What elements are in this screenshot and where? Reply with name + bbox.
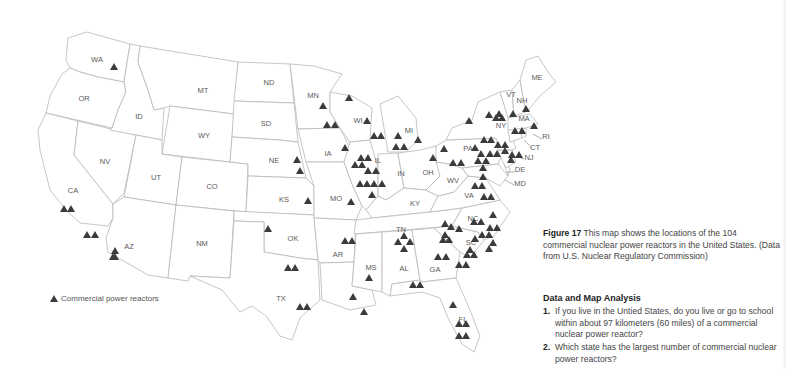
state-label-nj: NJ: [524, 153, 533, 162]
state-label-wi: WI: [353, 116, 362, 125]
state-label-mi: MI: [405, 126, 413, 135]
state-label-sd: SD: [261, 119, 272, 128]
legend-label: Commercial power reactors: [61, 294, 159, 303]
state-label-ne: NE: [269, 156, 279, 165]
reactor-triangle-icon: [515, 151, 523, 158]
state-label-me: ME: [531, 73, 542, 82]
state-label-al: AL: [399, 264, 408, 273]
reactor-triangle-icon: [489, 239, 497, 246]
state-label-ky: KY: [410, 199, 420, 208]
reactor-triangle-icon: [462, 261, 470, 268]
state-label-mn: MN: [307, 91, 319, 100]
figure-label: Figure 17: [543, 228, 581, 238]
state-label-nh: NH: [517, 96, 528, 105]
state-boundaries: [38, 32, 556, 352]
state-label-ks: KS: [279, 195, 289, 204]
state-label-oh: OH: [422, 168, 433, 177]
question-text: If you live in the Untied States, do you…: [555, 306, 780, 341]
state-label-va: VA: [464, 191, 473, 200]
reactor-triangle-icon: [370, 132, 378, 139]
state-label-wv: WV: [447, 176, 459, 185]
state-label-ar: AR: [333, 250, 344, 259]
state-label-az: AZ: [124, 242, 134, 251]
state-mi: [380, 96, 418, 152]
map-legend: Commercial power reactors: [50, 294, 159, 303]
state-label-ny: NY: [496, 121, 506, 130]
reactor-triangle-icon: [91, 231, 99, 238]
analysis-heading: Data and Map Analysis: [543, 293, 641, 303]
state-label-ca: CA: [68, 186, 78, 195]
state-label-nm: NM: [196, 239, 208, 248]
state-label-nv: NV: [100, 157, 110, 166]
reactor-triangle-icon: [50, 295, 58, 302]
state-label-or: OR: [78, 94, 90, 103]
page-edge-shadow: [782, 0, 786, 369]
question-1: 1.If you live in the Untied States, do y…: [543, 306, 783, 341]
state-label-nd: ND: [264, 78, 275, 87]
state-label-mo: MO: [330, 194, 342, 203]
state-label-vt: VT: [506, 90, 516, 99]
state-label-ut: UT: [151, 173, 161, 182]
state-label-mt: MT: [198, 86, 209, 95]
reactor-triangle-icon: [485, 245, 493, 252]
reactor-triangle-icon: [83, 231, 91, 238]
question-text: Which state has the largest number of co…: [555, 342, 780, 365]
state-az: [106, 197, 176, 278]
question-number: 1.: [543, 306, 555, 318]
state-label-tx: TX: [276, 294, 286, 303]
state-label-ms: MS: [365, 263, 376, 272]
state-ms: [352, 232, 382, 292]
question-number: 2.: [543, 342, 555, 354]
figure-caption: Figure 17 This map shows the locations o…: [543, 228, 783, 263]
state-label-pa: PA: [463, 144, 472, 153]
state-label-md: MD: [514, 179, 526, 188]
state-mt: [138, 46, 238, 114]
state-label-in: IN: [397, 169, 405, 178]
state-label-ma: MA: [518, 114, 529, 123]
state-label-ri: RI: [542, 132, 550, 141]
state-label-ga: GA: [430, 265, 441, 274]
state-label-il: IL: [375, 156, 381, 165]
state-label-wy: WY: [198, 131, 210, 140]
state-label-ok: OK: [288, 234, 299, 243]
state-label-tn: TN: [396, 225, 406, 234]
state-label-co: CO: [206, 182, 217, 191]
state-label-ia: IA: [324, 149, 331, 158]
question-2: 2.Which state has the largest number of …: [543, 342, 783, 365]
state-label-wa: WA: [91, 55, 103, 64]
state-label-id: ID: [135, 112, 143, 121]
reactor-triangle-icon: [360, 308, 368, 315]
reactor-triangle-icon: [377, 132, 385, 139]
state-label-de: DE: [515, 165, 525, 174]
